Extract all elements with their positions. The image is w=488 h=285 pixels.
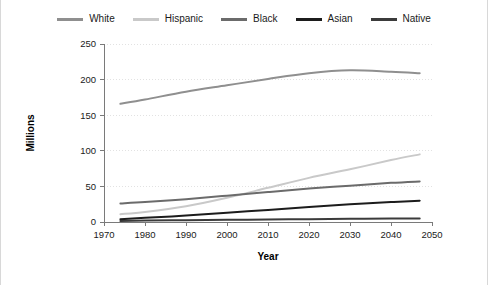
plot-svg: 050100150200250 197019801990200020102020… xyxy=(0,30,488,285)
plot-area: 050100150200250 197019801990200020102020… xyxy=(0,30,488,285)
legend-swatch-black xyxy=(221,18,247,21)
legend-item-native[interactable]: Native xyxy=(371,14,431,24)
y-axis-ticks: 050100150200250 xyxy=(80,38,104,227)
legend-item-hispanic[interactable]: Hispanic xyxy=(133,14,203,24)
legend-label: Hispanic xyxy=(165,14,203,24)
x-tick-label: 1980 xyxy=(134,229,155,240)
series-line-white xyxy=(120,70,419,103)
legend-label: White xyxy=(89,14,115,24)
series-line-black xyxy=(120,181,419,203)
legend-swatch-asian xyxy=(296,18,322,21)
x-tick-label: 2050 xyxy=(421,229,442,240)
gridlines xyxy=(104,44,432,186)
x-tick-label: 1970 xyxy=(93,229,114,240)
legend-label: Black xyxy=(253,14,277,24)
legend-swatch-hispanic xyxy=(133,18,159,21)
x-tick-label: 2040 xyxy=(380,229,401,240)
data-series xyxy=(120,70,419,221)
x-tick-label: 2000 xyxy=(216,229,237,240)
x-axis-title: Year xyxy=(257,251,278,262)
x-tick-label: 2010 xyxy=(257,229,278,240)
x-axis-ticks: 197019801990200020102020203020402050 xyxy=(93,222,442,240)
y-tick-label: 100 xyxy=(80,145,96,156)
legend-swatch-white xyxy=(57,18,83,21)
y-tick-label: 250 xyxy=(80,38,96,49)
chart-legend: WhiteHispanicBlackAsianNative xyxy=(0,8,488,30)
y-tick-label: 50 xyxy=(85,181,96,192)
legend-item-asian[interactable]: Asian xyxy=(296,14,353,24)
legend-item-white[interactable]: White xyxy=(57,14,115,24)
y-tick-label: 150 xyxy=(80,110,96,121)
legend-label: Asian xyxy=(328,14,353,24)
x-tick-label: 1990 xyxy=(175,229,196,240)
legend-item-black[interactable]: Black xyxy=(221,14,277,24)
population-projection-chart: WhiteHispanicBlackAsianNative 0501001502… xyxy=(0,0,488,285)
y-tick-label: 200 xyxy=(80,74,96,85)
x-tick-label: 2030 xyxy=(339,229,360,240)
legend-label: Native xyxy=(403,14,431,24)
legend-swatch-native xyxy=(371,18,397,21)
x-tick-label: 2020 xyxy=(298,229,319,240)
y-axis-title: Millions xyxy=(25,114,36,152)
y-tick-label: 0 xyxy=(91,216,96,227)
series-line-native xyxy=(120,218,419,221)
